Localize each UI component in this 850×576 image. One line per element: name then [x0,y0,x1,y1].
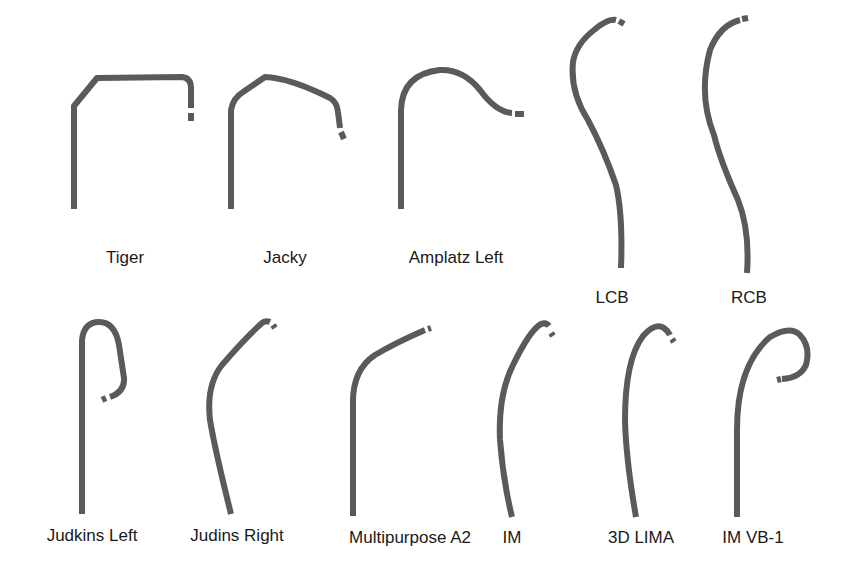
label-judkins-left: Judkins Left [47,527,138,544]
label-tiger: Tiger [106,249,144,266]
im-vb-1-catheter-shape [737,330,808,517]
jacky-catheter-shape [231,77,344,209]
label-im-vb-1: IM VB-1 [722,529,783,546]
3d-lima-catheter-shape [625,326,674,517]
rcb-catheter-shape [705,18,748,273]
judkins-left-catheter-shape [82,322,124,514]
label-rcb: RCB [731,289,767,306]
label-lcb: LCB [595,289,628,306]
label-multipurpose-a2: Multipurpose A2 [349,529,471,546]
label-jacky: Jacky [263,249,306,266]
catheter-drawings [0,0,850,576]
im-catheter-shape [500,323,553,517]
lcb-catheter-shape [573,20,624,268]
tiger-catheter-shape [74,77,191,209]
multipurpose-a2-catheter-shape [353,328,431,516]
judins-right-catheter-shape [209,321,275,514]
amplatz-left-catheter-shape [401,70,524,209]
label-amplatz-left: Amplatz Left [409,249,504,266]
label-3d-lima: 3D LIMA [608,529,674,546]
catheter-shapes-figure: Tiger Jacky Amplatz Left LCB RCB Judkins… [0,0,850,576]
label-im: IM [503,529,522,546]
label-judins-right: Judins Right [190,527,284,544]
